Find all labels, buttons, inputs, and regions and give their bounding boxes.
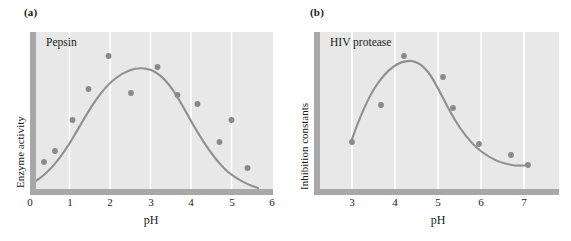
panel-a-plot-svg <box>36 32 273 189</box>
data-point <box>476 141 482 147</box>
data-point <box>245 165 251 171</box>
data-point <box>86 86 92 92</box>
panel-a: (a) Enzyme activity <box>0 0 285 241</box>
panel-a-x-axis-title: pH <box>121 213 181 228</box>
figure-container: (a) Enzyme activity <box>0 0 571 241</box>
panel-b-y-axis-label: Inhibition constants <box>298 40 312 190</box>
data-point <box>106 53 112 59</box>
data-point <box>349 139 355 145</box>
panel-b-xtick-3: 3 <box>342 196 362 208</box>
data-point <box>525 162 531 168</box>
data-point <box>195 101 201 107</box>
panel-a-plot-area: Pepsin <box>36 32 273 189</box>
data-point <box>217 139 223 145</box>
panel-a-x-axis-bar <box>30 189 273 195</box>
panel-a-data-points <box>41 53 250 171</box>
panel-a-label: (a) <box>24 6 37 18</box>
panel-b-data-points <box>349 53 531 168</box>
panel-a-gridlines <box>70 32 232 189</box>
panel-b-plot-area: HIV protease <box>320 32 559 189</box>
data-point <box>128 90 134 96</box>
panel-b-xtick-6: 6 <box>471 196 491 208</box>
data-point <box>378 102 384 108</box>
data-point <box>401 53 407 59</box>
data-point <box>229 117 235 123</box>
panel-a-xtick-4: 4 <box>181 196 201 208</box>
panel-a-xtick-1: 1 <box>60 196 80 208</box>
panel-a-xtick-2: 2 <box>100 196 120 208</box>
panel-b-gridlines <box>352 32 524 189</box>
panel-a-xtick-6: 6 <box>262 196 282 208</box>
panel-b-plot-svg <box>320 32 559 189</box>
panel-b-xtick-5: 5 <box>428 196 448 208</box>
data-point <box>450 105 456 111</box>
data-point <box>155 64 161 70</box>
data-point <box>52 148 58 154</box>
panel-a-chart-title: Pepsin <box>46 36 77 48</box>
panel-a-xtick-5: 5 <box>222 196 242 208</box>
panel-a-xtick-0: 0 <box>20 196 40 208</box>
panel-b-xtick-7: 7 <box>514 196 534 208</box>
panel-b-x-axis-title: pH <box>408 213 468 228</box>
panel-b-xtick-4: 4 <box>385 196 405 208</box>
panel-b-fit-curve <box>351 61 528 166</box>
panel-b-chart-title: HIV protease <box>330 36 391 48</box>
panel-a-y-axis-label: Enzyme activity <box>14 38 28 188</box>
panel-b-label: (b) <box>310 6 324 18</box>
data-point <box>70 117 76 123</box>
data-point <box>440 74 446 80</box>
panel-b-x-axis-bar <box>314 189 559 195</box>
data-point <box>175 92 181 98</box>
panel-b: (b) Inhibition constants <box>286 0 571 241</box>
data-point <box>41 159 47 165</box>
data-point <box>508 152 514 158</box>
panel-a-xtick-3: 3 <box>141 196 161 208</box>
